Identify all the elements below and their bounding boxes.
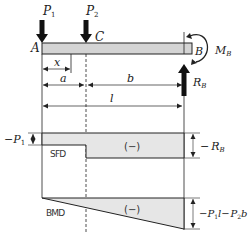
label-b-dim: b: [127, 72, 134, 85]
p2-arrow-icon: [80, 20, 92, 43]
beam-diagram: A C B P1 P2 MB RB x a b l (−) SFD −P1 −R…: [0, 0, 252, 238]
diagram-svg: A C B P1 P2 MB RB x a b l (−) SFD −P1 −R…: [0, 0, 252, 238]
label-rb: RB: [192, 76, 206, 90]
bmd-sign: (−): [124, 204, 140, 215]
sfd-label: SFD: [50, 149, 66, 159]
label-a-end: A: [30, 41, 40, 55]
sfd-right-value: −RB: [200, 140, 225, 154]
sfd-left-value: −P1: [4, 133, 25, 147]
bmd-label: BMD: [46, 208, 65, 218]
label-mb: MB: [214, 44, 231, 58]
reaction-arrow-icon: [178, 64, 190, 96]
label-p1: P1: [42, 4, 56, 19]
sfd-sign: (−): [124, 141, 140, 152]
label-x: x: [54, 56, 61, 69]
label-l: l: [110, 92, 114, 105]
beam: [42, 43, 192, 54]
label-b-end: B: [194, 45, 203, 58]
label-c: C: [95, 30, 104, 44]
bmd-right-value: −P1l−P2b: [199, 208, 248, 220]
label-p2: P2: [85, 4, 99, 19]
label-a-dim: a: [60, 72, 67, 85]
p1-arrow-icon: [36, 20, 48, 43]
